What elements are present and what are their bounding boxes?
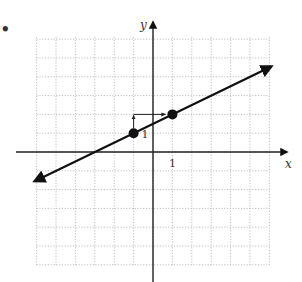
coordinate-plane: • x y 1 1 [0,0,302,282]
point-a [129,128,139,138]
y-axis-label: y [139,18,147,32]
axes [16,22,287,282]
bullet-marker: • [0,19,11,40]
point-b [167,109,177,119]
x-axis-label: x [285,157,292,171]
x-tick-label-1: 1 [169,157,176,170]
rise-label: 1 [142,128,149,141]
